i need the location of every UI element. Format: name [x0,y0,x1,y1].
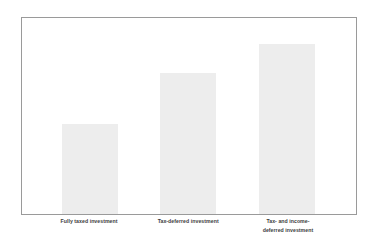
bar-fully-taxed-investment [62,124,118,214]
bar-slot-1 [62,18,118,214]
chart-screenshot: Fully taxed investment Tax-deferred inve… [0,0,377,250]
category-labels: Fully taxed investment Tax-deferred inve… [21,217,357,250]
chart-frame [21,17,357,215]
bar-slot-3 [259,18,315,214]
category-label-2: Tax-deferred investment [138,217,239,226]
bar-slot-2 [160,18,216,214]
category-label-3: Tax- and income- deferred investment [238,217,339,234]
category-label-1: Fully taxed investment [39,217,140,226]
plot-area [22,18,356,214]
bar-tax-deferred-investment [160,73,216,214]
bar-tax-and-income-deferred-investment [259,44,315,214]
